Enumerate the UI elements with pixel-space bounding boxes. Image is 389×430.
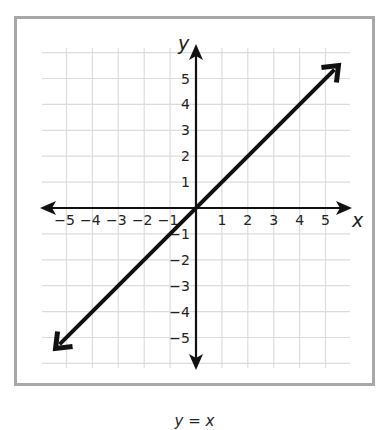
x-tick-label: 2 [243, 212, 252, 228]
y-tick-label: −3 [169, 278, 190, 294]
y-tick-label: −4 [169, 304, 190, 320]
graph-caption: y = x [0, 412, 389, 430]
y-tick-label: −5 [169, 330, 190, 346]
y-tick-label: 4 [181, 96, 190, 112]
y-tick-label: −2 [169, 252, 190, 268]
x-tick-label: −3 [106, 212, 127, 228]
x-tick-label: 1 [217, 212, 226, 228]
y-tick-label: 3 [181, 122, 190, 138]
x-tick-label: −5 [54, 212, 75, 228]
y-tick-label: 5 [181, 71, 190, 87]
x-tick-label: −2 [132, 212, 153, 228]
y-tick-label: 2 [181, 148, 190, 164]
y-axis-label: y [177, 32, 190, 54]
x-tick-label: 5 [321, 212, 330, 228]
x-tick-label: 4 [295, 212, 304, 228]
x-axis-label: x [351, 209, 364, 231]
y-tick-label: 1 [181, 174, 190, 190]
x-tick-label: −4 [80, 212, 101, 228]
x-tick-label: 3 [269, 212, 278, 228]
